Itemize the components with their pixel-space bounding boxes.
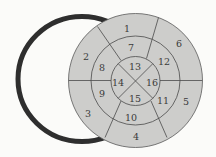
segment-label: 11: [157, 95, 169, 106]
segment-label: 5: [183, 96, 189, 107]
segment-label: 10: [125, 112, 137, 123]
segment-label: 6: [176, 38, 182, 49]
segment-label: 15: [129, 93, 141, 104]
segment-label: 1: [124, 23, 130, 34]
bullseye-diagram: 1 2 3 4 5 6 7 8 9 10 11 12 13 14 15 16: [0, 0, 216, 157]
segment-label: 12: [158, 56, 170, 67]
segment-label: 2: [83, 51, 89, 62]
segment-label: 9: [99, 88, 105, 99]
segment-label: 3: [85, 108, 91, 119]
segment-label: 7: [128, 42, 134, 53]
segment-label: 8: [99, 62, 105, 73]
segment-label: 16: [146, 77, 158, 88]
segment-label: 14: [112, 77, 124, 88]
segment-label: 13: [129, 61, 141, 72]
segment-label: 4: [133, 131, 139, 142]
